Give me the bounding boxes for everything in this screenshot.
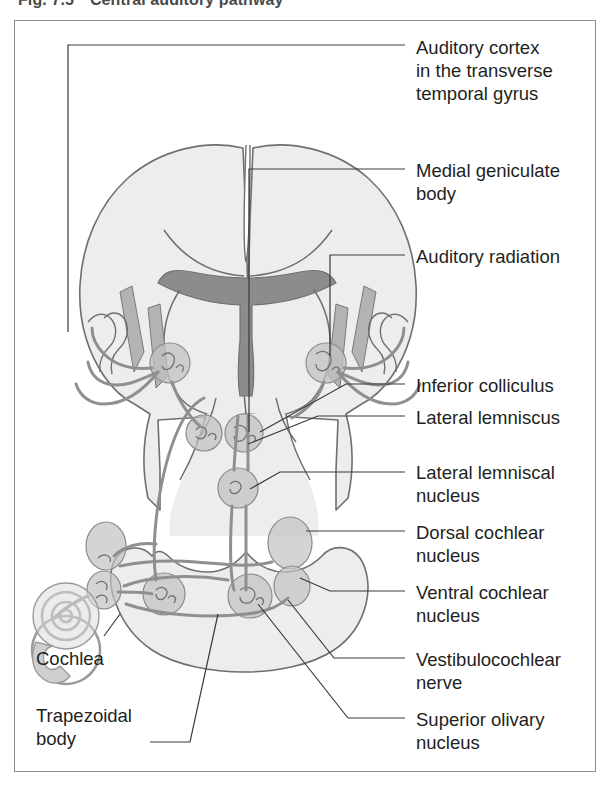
label-lateral-lemniscal-nucleus: Lateral lemniscal nucleus [416,461,555,507]
label-lateral-lemniscus: Lateral lemniscus [416,406,560,429]
inferior-colliculus [150,343,190,383]
dorsal-cochlear-nucleus [268,517,312,569]
label-ventral-cochlear-nucleus: Ventral cochlear nucleus [416,581,549,627]
dorsal-cochlear-nucleus-left [86,522,126,570]
label-superior-olivary-nucleus: Superior olivary nucleus [416,708,545,754]
label-inferior-colliculus: Inferior colliculus [416,374,554,397]
label-trapezoidal-body: Trapezoidal body [36,704,132,750]
medial-geniculate-body-right [225,414,263,452]
label-medial-geniculate-body: Medial geniculate body [416,159,560,205]
figure-page: Fig. 7.5Central auditory pathway [0,0,613,787]
ventral-cochlear-nucleus [274,566,310,606]
label-auditory-radiation: Auditory radiation [416,245,560,268]
label-dorsal-cochlear-nucleus: Dorsal cochlear nucleus [416,521,545,567]
inferior-colliculus-right [306,343,346,383]
label-vestibulocochlear-nerve: Vestibulocochlear nerve [416,648,561,694]
label-auditory-cortex: Auditory cortex in the transverse tempor… [416,36,553,105]
label-cochlea: Cochlea [36,647,104,670]
medial-geniculate-body-left [186,415,222,451]
